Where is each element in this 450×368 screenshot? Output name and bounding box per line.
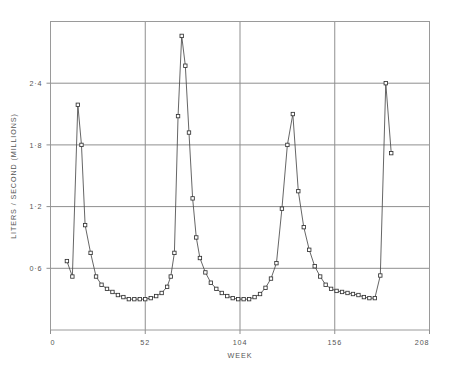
- data-point: [154, 294, 157, 297]
- data-point: [346, 291, 349, 294]
- data-point: [89, 251, 92, 254]
- data-point: [80, 143, 83, 146]
- data-point: [275, 261, 278, 264]
- x-axis-label: WEEK: [228, 351, 253, 360]
- data-point: [269, 277, 272, 280]
- y-tick-label: 0·6: [29, 264, 42, 273]
- chart-figure: 0·61·21·82·4 052104156208 LITERS / SECON…: [0, 0, 450, 368]
- data-point: [286, 143, 289, 146]
- x-tick-label: 0: [51, 338, 56, 347]
- data-point: [302, 225, 305, 228]
- data-point: [247, 297, 250, 300]
- data-point: [357, 293, 360, 296]
- data-point: [297, 189, 300, 192]
- data-point: [169, 275, 172, 278]
- data-point: [191, 197, 194, 200]
- data-point: [236, 297, 239, 300]
- data-point: [390, 151, 393, 154]
- data-point: [198, 256, 201, 259]
- data-point: [116, 293, 119, 296]
- x-tick-label: 156: [327, 338, 342, 347]
- y-tick-label: 1·8: [29, 141, 42, 150]
- data-point: [100, 283, 103, 286]
- y-axis-label: LITERS / SECOND (MILLIONS): [9, 113, 18, 239]
- x-tick-label: 104: [233, 338, 248, 347]
- data-point: [379, 274, 382, 277]
- data-point: [318, 275, 321, 278]
- data-point: [176, 114, 179, 117]
- data-point: [94, 275, 97, 278]
- x-tick-label: 208: [415, 338, 430, 347]
- data-point: [122, 295, 125, 298]
- data-point: [308, 248, 311, 251]
- y-tick-label: 1·2: [29, 202, 42, 211]
- data-point: [231, 296, 234, 299]
- data-point: [71, 275, 74, 278]
- data-point: [187, 131, 190, 134]
- data-point: [111, 290, 114, 293]
- data-point: [184, 64, 187, 67]
- data-point: [351, 292, 354, 295]
- data-point: [180, 34, 183, 37]
- data-point: [204, 271, 207, 274]
- data-point: [373, 296, 376, 299]
- data-point: [242, 297, 245, 300]
- data-point: [133, 297, 136, 300]
- data-point: [105, 287, 108, 290]
- y-tick-label: 2·4: [29, 79, 42, 88]
- data-point: [264, 286, 267, 289]
- data-point: [65, 259, 68, 262]
- data-point: [76, 103, 79, 106]
- data-point: [362, 295, 365, 298]
- data-point: [127, 297, 130, 300]
- data-point: [340, 290, 343, 293]
- data-point: [329, 287, 332, 290]
- data-point: [215, 287, 218, 290]
- data-point: [83, 223, 86, 226]
- data-point: [173, 251, 176, 254]
- data-point: [220, 291, 223, 294]
- data-point: [165, 285, 168, 288]
- data-point: [368, 296, 371, 299]
- data-point: [160, 291, 163, 294]
- data-point: [144, 297, 147, 300]
- data-point: [195, 236, 198, 239]
- data-point: [335, 289, 338, 292]
- data-point: [209, 281, 212, 284]
- data-point: [291, 112, 294, 115]
- data-point: [384, 82, 387, 85]
- data-point: [258, 292, 261, 295]
- x-tick-label: 52: [140, 338, 150, 347]
- data-point: [149, 296, 152, 299]
- data-point: [138, 297, 141, 300]
- data-point: [324, 283, 327, 286]
- data-point: [253, 295, 256, 298]
- data-point: [280, 207, 283, 210]
- data-point: [226, 294, 229, 297]
- data-point: [313, 265, 316, 268]
